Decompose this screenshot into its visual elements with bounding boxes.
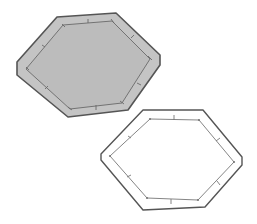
filled-hexagon-frame: [17, 13, 160, 117]
outline-hexagon-outer: [101, 110, 242, 210]
diagram-canvas: [0, 0, 257, 224]
outline-hexagon-frame: [101, 110, 242, 210]
